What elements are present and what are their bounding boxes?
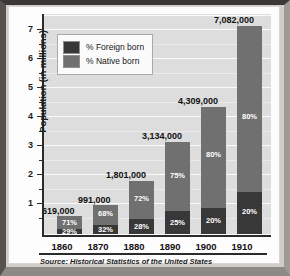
legend-label-native-born: % Native born [86, 57, 139, 66]
bar-1900-native-segment: 80% [201, 107, 226, 208]
x-label-1860: 1860 [45, 242, 79, 252]
bar-1900-foreign-segment: 20% [201, 208, 226, 234]
bar-1890-foreign-segment: 25% [165, 211, 190, 234]
x-label-1880: 1880 [117, 242, 151, 252]
bar-1890-native-pct: 75% [165, 172, 190, 180]
y-label-4: 4 [13, 112, 33, 121]
source-note: Source: Historical Statistics of the Uni… [40, 257, 212, 266]
bar-1900-native-pct: 80% [201, 151, 226, 159]
bar-1860-native-pct: 71% [57, 219, 82, 227]
bar-1910-native-pct: 80% [237, 113, 262, 121]
bar-1870[interactable]: 68% 32% [93, 205, 118, 234]
bar-1890[interactable]: 75% 25% [165, 142, 190, 234]
bar-1870-foreign-segment: 32% [93, 225, 118, 234]
bar-1910-native-segment: 80% [237, 26, 262, 192]
legend-item-native-born[interactable]: % Native born [63, 55, 144, 68]
bar-1860[interactable]: 71% 29% [57, 216, 82, 234]
y-axis-title: Population (in millions) [37, 17, 48, 147]
y-tick-2_5 [39, 160, 42, 161]
bar-1880-native-pct: 72% [129, 195, 154, 203]
chart-paper: 71% 29% 68% 32% [8, 6, 280, 264]
y-tick-0_5 [39, 218, 42, 219]
bar-1880-foreign-segment: 28% [129, 219, 154, 234]
x-axis-line [42, 235, 271, 237]
bar-1910[interactable]: 80% 20% [237, 26, 262, 234]
y-label-7: 7 [13, 25, 33, 34]
bar-1860-foreign-segment: 29% [57, 229, 82, 234]
x-label-1900: 1900 [189, 242, 223, 252]
legend-item-foreign-born[interactable]: % Foreign born [63, 41, 144, 54]
bar-1860-value-label: 619,000 [42, 207, 75, 216]
x-label-1890: 1890 [153, 242, 187, 252]
bar-1870-value-label: 991,000 [78, 196, 111, 205]
bar-1880-value-label: 1,801,000 [106, 171, 146, 180]
y-label-2: 2 [13, 170, 33, 179]
bar-1880[interactable]: 72% 28% [129, 181, 154, 234]
source-divider [39, 253, 267, 255]
bar-1860-foreign-pct: 29% [57, 228, 82, 234]
bar-1890-native-segment: 75% [165, 142, 190, 211]
y-label-5: 5 [13, 83, 33, 92]
y-label-1: 1 [13, 199, 33, 208]
bar-1910-value-label: 7,082,000 [214, 16, 254, 25]
legend-label-foreign-born: % Foreign born [86, 43, 144, 52]
legend-swatch-foreign-born [63, 41, 80, 54]
x-label-1870: 1870 [81, 242, 115, 252]
bar-1890-value-label: 3,134,000 [142, 132, 182, 141]
y-tick-1 [37, 203, 42, 204]
bar-1880-foreign-pct: 28% [129, 223, 154, 231]
bar-1910-foreign-segment: 20% [237, 192, 262, 234]
bar-1900[interactable]: 80% 20% [201, 107, 226, 234]
bar-1870-native-segment: 68% [93, 205, 118, 225]
bar-1900-value-label: 4,309,000 [178, 97, 218, 106]
legend-swatch-native-born [63, 55, 80, 68]
y-tick-2 [37, 174, 42, 175]
bar-1870-foreign-pct: 32% [93, 226, 118, 234]
bar-1880-native-segment: 72% [129, 181, 154, 219]
chart-page: 71% 29% 68% 32% [0, 0, 290, 276]
chart-legend: % Foreign born % Native born [57, 34, 153, 75]
bar-1910-foreign-pct: 20% [237, 208, 262, 216]
bar-1890-foreign-pct: 25% [165, 219, 190, 227]
y-tick-1_5 [39, 189, 42, 190]
bar-1870-native-pct: 68% [93, 210, 118, 218]
y-label-6: 6 [13, 54, 33, 63]
y-label-3: 3 [13, 141, 33, 150]
bar-1900-foreign-pct: 20% [201, 217, 226, 225]
chart-figure: 71% 29% 68% 32% [35, 14, 271, 246]
x-label-1910: 1910 [225, 242, 259, 252]
